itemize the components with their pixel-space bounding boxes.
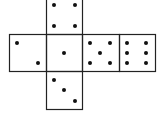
pip-dot bbox=[62, 88, 66, 92]
face-left bbox=[10, 35, 47, 72]
face-outline bbox=[47, 0, 83, 35]
pip-dot bbox=[52, 24, 56, 28]
pip-dot bbox=[52, 78, 56, 82]
face-bottom bbox=[47, 72, 83, 110]
pip-dot bbox=[52, 3, 56, 7]
pip-dot bbox=[108, 61, 112, 65]
pip-dot bbox=[73, 99, 77, 103]
face-center bbox=[47, 35, 83, 72]
pip-dot bbox=[144, 51, 148, 55]
pip-dot bbox=[98, 51, 102, 55]
face-top bbox=[47, 0, 83, 35]
pip-dot bbox=[88, 41, 92, 45]
pip-dot bbox=[144, 41, 148, 45]
pip-dot bbox=[62, 51, 66, 55]
die-net-diagram bbox=[0, 0, 157, 113]
pip-dot bbox=[125, 41, 129, 45]
pip-dot bbox=[125, 51, 129, 55]
face-far-right bbox=[120, 35, 156, 72]
face-right bbox=[83, 35, 120, 72]
pip-dot bbox=[73, 3, 77, 7]
pip-dot bbox=[88, 61, 92, 65]
pip-dot bbox=[36, 61, 40, 65]
pip-dot bbox=[108, 41, 112, 45]
face-outline bbox=[10, 35, 47, 72]
pip-dot bbox=[144, 61, 148, 65]
pip-dot bbox=[125, 61, 129, 65]
face-outline bbox=[120, 35, 156, 72]
pip-dot bbox=[15, 41, 19, 45]
pip-dot bbox=[73, 24, 77, 28]
